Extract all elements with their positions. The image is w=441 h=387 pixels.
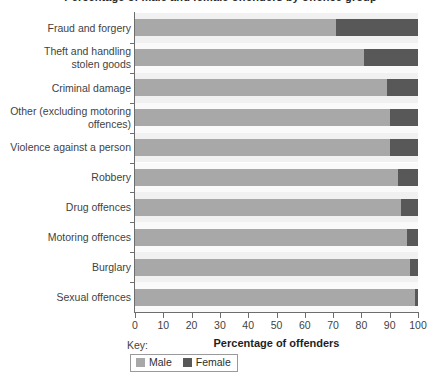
x-tick-label-100: 100 (403, 319, 433, 331)
x-tick (390, 313, 391, 318)
legend-item-female: Female (183, 357, 231, 368)
bar-5 (135, 139, 418, 156)
x-tick-label-30: 30 (205, 319, 235, 331)
plot-area (135, 13, 418, 312)
bar-segment-male (135, 169, 398, 186)
chart-title: Percentage of male and female offenders … (0, 0, 441, 3)
x-tick-label-20: 20 (177, 319, 207, 331)
category-label-3: Criminal damage (3, 82, 131, 94)
x-tick-label-70: 70 (318, 319, 348, 331)
bar-7 (135, 199, 418, 216)
legend: MaleFemale (130, 354, 238, 372)
bar-segment-female (398, 169, 418, 186)
x-tick-label-50: 50 (262, 319, 292, 331)
x-axis-title: Percentage of offenders (135, 337, 418, 349)
category-tick (130, 252, 135, 253)
x-tick (220, 313, 221, 318)
category-label-9: Burglary (3, 261, 131, 273)
x-tick (305, 313, 306, 318)
bar-segment-female (336, 19, 418, 36)
bar-4 (135, 109, 418, 126)
bar-segment-male (135, 139, 390, 156)
bar-segment-female (410, 259, 418, 276)
bar-2 (135, 49, 418, 66)
x-tick (418, 313, 419, 318)
x-tick (248, 313, 249, 318)
legend-caption: Key: (127, 339, 148, 351)
bar-3 (135, 79, 418, 96)
bar-segment-female (387, 79, 418, 96)
legend-item-male: Male (136, 357, 172, 368)
x-tick-label-0: 0 (120, 319, 150, 331)
bar-segment-male (135, 19, 336, 36)
category-label-4: Other (excluding motoring offences) (3, 105, 131, 130)
bar-segment-female (407, 229, 418, 246)
x-tick-label-10: 10 (148, 319, 178, 331)
category-tick (130, 43, 135, 44)
bar-segment-female (415, 289, 418, 306)
bar-9 (135, 259, 418, 276)
bar-10 (135, 289, 418, 306)
bar-1 (135, 19, 418, 36)
category-tick (130, 192, 135, 193)
bar-segment-male (135, 229, 407, 246)
x-tick (192, 313, 193, 318)
x-tick-label-60: 60 (290, 319, 320, 331)
category-tick (130, 222, 135, 223)
x-tick-label-90: 90 (375, 319, 405, 331)
bar-segment-female (390, 139, 418, 156)
category-label-1: Fraud and forgery (3, 22, 131, 34)
category-tick (130, 163, 135, 164)
x-tick-label-80: 80 (346, 319, 376, 331)
legend-swatch-male (136, 358, 145, 367)
category-label-10: Sexual offences (3, 291, 131, 303)
category-tick (130, 103, 135, 104)
category-tick (130, 73, 135, 74)
bar-segment-male (135, 49, 364, 66)
category-label-8: Motoring offences (3, 231, 131, 243)
x-tick (163, 313, 164, 318)
legend-swatch-female (183, 358, 192, 367)
x-tick (333, 313, 334, 318)
x-tick (361, 313, 362, 318)
bar-segment-female (390, 109, 418, 126)
bar-6 (135, 169, 418, 186)
x-tick (277, 313, 278, 318)
legend-label-female: Female (196, 357, 231, 368)
bar-segment-male (135, 79, 387, 96)
category-label-6: Robbery (3, 171, 131, 183)
bar-segment-male (135, 109, 390, 126)
category-axis-labels: Fraud and forgeryTheft and handling stol… (0, 13, 131, 312)
category-tick (130, 282, 135, 283)
category-tick (130, 133, 135, 134)
bar-segment-female (364, 49, 418, 66)
category-label-5: Violence against a person (3, 141, 131, 153)
bar-segment-female (401, 199, 418, 216)
x-tick (135, 313, 136, 318)
category-label-7: Drug offences (3, 201, 131, 213)
bar-segment-male (135, 199, 401, 216)
bar-segment-male (135, 289, 415, 306)
bar-8 (135, 229, 418, 246)
bar-segment-male (135, 259, 410, 276)
x-tick-label-40: 40 (233, 319, 263, 331)
legend-label-male: Male (149, 357, 172, 368)
category-label-2: Theft and handling stolen goods (3, 45, 131, 70)
